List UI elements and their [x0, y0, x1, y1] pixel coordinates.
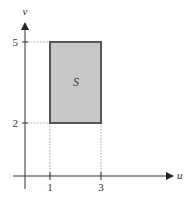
- tick-label-u3: 3: [98, 181, 104, 193]
- tick-label-v2: 2: [13, 117, 19, 129]
- uv-plane-diagram: 1 3 5 2 u v S: [0, 0, 192, 199]
- v-axis-label: v: [23, 5, 28, 17]
- tick-label-u1: 1: [47, 181, 53, 193]
- region-label: S: [73, 75, 79, 89]
- tick-label-v5: 5: [13, 36, 19, 48]
- u-axis-label: u: [177, 169, 183, 181]
